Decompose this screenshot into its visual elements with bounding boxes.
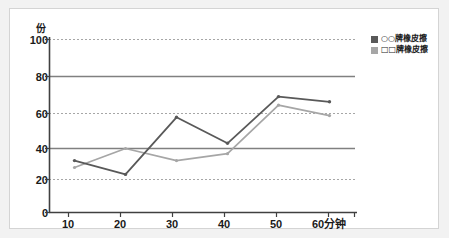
legend-label-1: □□牌橡皮擦 — [381, 46, 428, 54]
legend-label-0: ○○牌橡皮擦 — [381, 35, 427, 43]
series-line-light — [75, 105, 330, 167]
chart-legend: ○○牌橡皮擦 □□牌橡皮擦 — [371, 35, 428, 54]
chart-frame: 份 100 80 60 40 20 0 10 20 30 40 50 60分钟 — [9, 8, 439, 229]
legend-swatch-icon-light — [371, 47, 378, 54]
legend-item-0[interactable]: ○○牌橡皮擦 — [371, 35, 428, 43]
chart-figure: 份 100 80 60 40 20 0 10 20 30 40 50 60分钟 — [0, 0, 449, 238]
legend-swatch-icon-dark — [371, 36, 378, 43]
series-markers-dark — [73, 95, 331, 176]
legend-item-1[interactable]: □□牌橡皮擦 — [371, 46, 428, 54]
